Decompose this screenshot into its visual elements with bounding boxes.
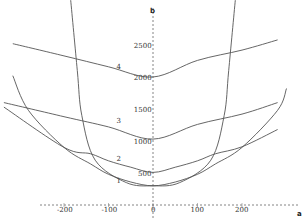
x-tick-label: -100 <box>102 206 118 214</box>
chart: b a -200-10001002005001000150020002500 1… <box>0 0 306 222</box>
y-tick-label: 2500 <box>134 42 152 50</box>
y-tick-label: 1500 <box>134 106 152 114</box>
x-tick-label: 200 <box>235 206 248 214</box>
curve-label: 2 <box>117 155 121 163</box>
x-axis-label: a <box>297 210 302 218</box>
curves: 1234 <box>4 0 287 186</box>
y-axis-label: b <box>150 7 155 15</box>
axes: b a -200-10001002005001000150020002500 <box>40 7 302 218</box>
x-tick-label: 100 <box>191 206 204 214</box>
x-tick-label: 0 <box>151 206 155 214</box>
curve-label: 3 <box>117 117 121 125</box>
x-tick-label: -200 <box>57 206 73 214</box>
curve-label: 4 <box>117 63 122 71</box>
